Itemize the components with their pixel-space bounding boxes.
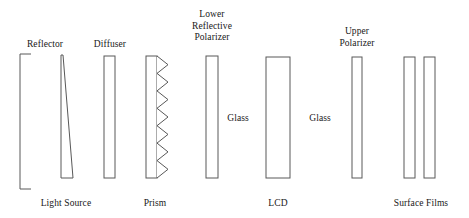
lcd-label: LCD — [254, 198, 302, 210]
lower-reflective-polarizer-label-line3: Polarizer — [172, 32, 252, 44]
prism-body-shape — [146, 56, 157, 178]
surface-films-label: Surface Films — [375, 198, 467, 210]
light-source-label: Light Source — [18, 198, 114, 210]
lower-reflective-polarizer-label-line1: Lower — [172, 9, 252, 21]
prism-label: Prism — [118, 198, 192, 210]
lcd-backlight-stack-diagram: Reflector Light Source Diffuser Prism Lo… — [0, 0, 469, 218]
lower-reflective-polarizer-label-line2: Reflective — [172, 21, 252, 33]
lower-reflective-polarizer-label: Lower Reflective Polarizer — [172, 9, 252, 44]
diffuser-shape — [104, 56, 115, 178]
surface-film-1-shape — [404, 57, 415, 178]
prism-sawtooth-shape — [157, 56, 168, 178]
diffuser-label: Diffuser — [73, 39, 147, 51]
upper-polarizer-shape — [352, 57, 362, 178]
upper-polarizer-label-line1: Upper — [325, 26, 389, 38]
glass-right-label: Glass — [297, 113, 343, 125]
upper-polarizer-label: Upper Polarizer — [325, 26, 389, 49]
lcd-shape — [266, 57, 290, 178]
light-source-shape — [61, 55, 73, 178]
upper-polarizer-label-line2: Polarizer — [325, 38, 389, 50]
surface-film-2-shape — [424, 57, 435, 178]
glass-left-label: Glass — [215, 113, 261, 125]
reflector-shape — [20, 54, 31, 189]
